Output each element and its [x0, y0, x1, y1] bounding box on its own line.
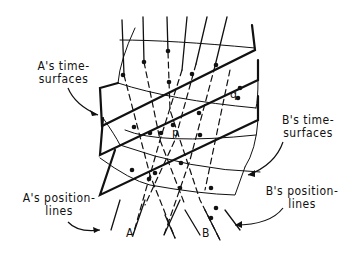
label-b-time-surfaces: B's time- surfaces	[268, 114, 348, 140]
label-line: surfaces	[268, 127, 348, 140]
label-line: surfaces	[26, 73, 101, 86]
label-line: lines	[252, 198, 352, 211]
dashed-position-lines	[124, 52, 230, 240]
label-point-p: p	[172, 126, 179, 139]
b-time-surfaces	[100, 28, 260, 195]
label-line-a: A	[126, 227, 134, 240]
label-b-position-lines: B's position- lines	[252, 185, 352, 211]
label-line-b: B	[202, 227, 210, 240]
label-a-position-lines: A's position- lines	[14, 192, 104, 218]
label-a-time-surfaces: A's time- surfaces	[26, 60, 101, 86]
label-point-q: q	[230, 88, 237, 101]
label-line: lines	[14, 205, 104, 218]
